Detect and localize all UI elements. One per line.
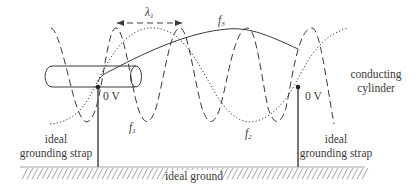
grounded-cylinder-diagram: λ1 f3 f1 f2 0 V 0 V conducting cylinder … — [0, 0, 419, 190]
left-strap-label-line2: grounding strap — [20, 147, 93, 160]
wavelength-label: λ1 — [144, 6, 153, 20]
conducting-cylinder — [45, 66, 141, 87]
cylinder-label-line1: conducting — [350, 68, 401, 81]
left-strap-label-line1: ideal — [45, 133, 67, 145]
f2-label: f2 — [245, 127, 252, 141]
f3-label: f3 — [218, 14, 225, 28]
f3-solid-curve — [98, 29, 298, 82]
left-zero-volt-point — [96, 85, 101, 90]
left-voltage-label: 0 V — [103, 90, 120, 102]
right-voltage-label: 0 V — [305, 90, 322, 102]
f2-dotted-curve — [50, 28, 348, 124]
f1-label: f1 — [129, 121, 136, 135]
f1-dashed-curve — [51, 28, 334, 124]
cylinder-label-line2: cylinder — [357, 82, 395, 95]
right-strap-label-line2: grounding strap — [300, 147, 373, 160]
right-zero-volt-point — [296, 85, 301, 90]
right-strap-label-line1: ideal — [325, 133, 347, 145]
ground-label: ideal ground — [165, 170, 223, 183]
